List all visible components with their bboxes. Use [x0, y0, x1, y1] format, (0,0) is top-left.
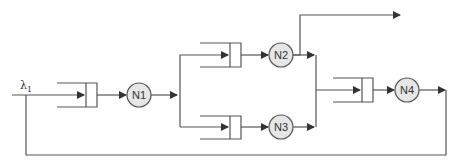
svg-text:λ: λ — [20, 79, 27, 92]
node-n3: N3 — [269, 115, 293, 139]
svg-text:1: 1 — [27, 85, 32, 94]
svg-text:N1: N1 — [132, 89, 146, 101]
svg-text:N4: N4 — [400, 84, 414, 96]
arrival-rate-label: λ 1 — [20, 79, 32, 94]
svg-text:N2: N2 — [274, 49, 288, 61]
edge-n2-exit — [293, 15, 400, 55]
feedback-loop — [26, 90, 446, 155]
node-n1: N1 — [127, 83, 151, 107]
node-n4: N4 — [395, 78, 419, 102]
svg-text:N3: N3 — [274, 121, 288, 133]
node-n2: N2 — [269, 43, 293, 67]
queueing-network-diagram: N1 N2 N3 N4 λ 1 — [0, 0, 460, 164]
